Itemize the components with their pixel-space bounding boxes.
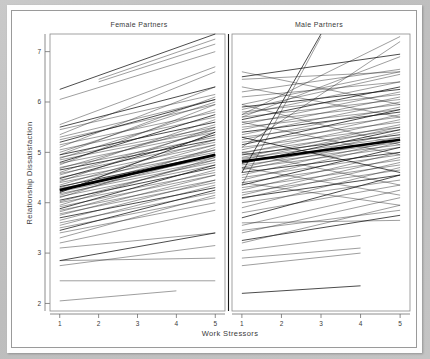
y-tick-label: 6 — [37, 98, 41, 105]
participant-line — [242, 220, 400, 223]
participant-line — [242, 175, 400, 198]
participant-line — [60, 291, 177, 301]
participant-line — [60, 258, 216, 261]
participant-line — [242, 215, 400, 240]
participant-line — [242, 205, 400, 243]
participant-line — [242, 72, 400, 80]
participant-line — [60, 210, 216, 243]
x-tick-label: 1 — [58, 320, 62, 327]
y-tick-label: 7 — [37, 48, 41, 55]
participant-line — [242, 180, 400, 203]
axis-tick-layer: 2345671234512345 — [37, 34, 410, 327]
participant-line — [60, 132, 216, 163]
participant-line — [60, 203, 216, 233]
participant-line — [242, 248, 361, 258]
participant-line — [60, 142, 216, 173]
panel-lines-female-partners — [60, 34, 216, 301]
participant-line — [242, 157, 400, 195]
x-axis-title: Work Stressors — [202, 329, 259, 338]
y-tick-label: 5 — [37, 149, 41, 156]
panel-lines-male-partners — [242, 34, 400, 293]
figure-root: Relationship Dissatisfaction Female Part… — [0, 0, 430, 359]
x-tick-label: 4 — [175, 320, 179, 327]
participant-line — [242, 162, 400, 198]
participant-line — [242, 54, 400, 77]
data-lines-layer — [60, 34, 400, 301]
participant-line — [242, 210, 400, 230]
participant-line — [242, 147, 400, 185]
participant-line — [60, 130, 216, 175]
panel-title-female: Female Partners — [111, 21, 168, 28]
panel-title-male: Male Partners — [295, 21, 343, 28]
participant-line — [60, 246, 216, 266]
participant-line — [60, 170, 216, 212]
participant-line — [60, 185, 216, 225]
participant-line — [60, 190, 216, 230]
x-tick-label: 5 — [398, 320, 402, 327]
participant-line — [242, 102, 400, 135]
participant-line — [60, 193, 216, 223]
participant-line — [242, 253, 361, 266]
participant-line — [60, 233, 216, 248]
y-tick-label: 2 — [37, 300, 41, 307]
participant-line — [60, 195, 216, 238]
x-tick-label: 1 — [240, 320, 244, 327]
x-tick-label: 3 — [319, 320, 323, 327]
spaghetti-plot-chart: Relationship Dissatisfaction Female Part… — [0, 0, 430, 359]
y-axis-title: Relationship Dissatisfaction — [25, 122, 34, 225]
participant-line — [242, 190, 400, 225]
x-tick-label: 2 — [280, 320, 284, 327]
y-tick-label: 4 — [37, 199, 41, 206]
participant-line — [60, 94, 216, 129]
participant-line — [60, 233, 216, 261]
x-tick-label: 3 — [136, 320, 140, 327]
participant-line — [99, 44, 216, 82]
participant-line — [242, 286, 361, 294]
x-tick-label: 5 — [213, 320, 217, 327]
participant-line — [242, 69, 400, 92]
y-tick-label: 3 — [37, 249, 41, 256]
x-tick-label: 2 — [97, 320, 101, 327]
x-tick-label: 4 — [359, 320, 363, 327]
